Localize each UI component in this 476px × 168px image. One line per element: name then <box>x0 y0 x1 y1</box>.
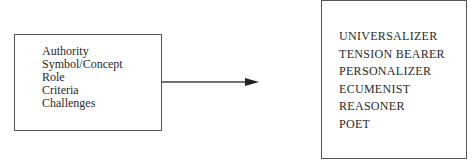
dimensions-box: Authority Symbol/Concept Role Criteria C… <box>14 34 162 131</box>
dimensions-list: Authority Symbol/Concept Role Criteria C… <box>42 45 123 110</box>
role-item: ECUMENIST <box>339 81 445 99</box>
role-item: POET <box>339 116 445 134</box>
role-item: PERSONALIZER <box>339 63 445 81</box>
roles-list: UNIVERSALIZER TENSION BEARER PERSONALIZE… <box>339 28 445 133</box>
dimension-item: Challenges <box>42 97 123 110</box>
role-item: TENSION BEARER <box>339 46 445 64</box>
roles-box: UNIVERSALIZER TENSION BEARER PERSONALIZE… <box>321 0 467 159</box>
arrow-right-icon <box>161 76 261 88</box>
role-item: REASONER <box>339 98 445 116</box>
role-item: UNIVERSALIZER <box>339 28 445 46</box>
